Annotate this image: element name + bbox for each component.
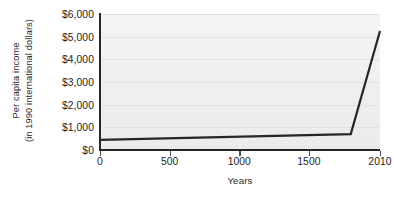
x-axis-tick-label: 1000 xyxy=(228,156,251,167)
y-axis-title: Per capita income (in 1990 international… xyxy=(0,0,46,160)
y-axis-tick-label: $1,000 xyxy=(62,122,94,133)
y-axis-title-line-1: Per capita income xyxy=(11,18,24,141)
plot-area xyxy=(100,14,380,150)
y-axis-tick-labels: $0$1,000$2,000$3,000$4,000$5,000$6,000 xyxy=(42,14,98,150)
x-axis-tick-label: 1500 xyxy=(297,156,320,167)
y-axis-tick-label: $6,000 xyxy=(62,9,94,20)
per-capita-income-chart: Per capita income (in 1990 international… xyxy=(0,0,394,198)
y-axis-tick-label: $3,000 xyxy=(62,77,94,88)
y-axis-title-line-2: (in 1990 international dollars) xyxy=(23,18,36,141)
income-line-series xyxy=(100,31,380,140)
x-axis-tick-label: 500 xyxy=(161,156,178,167)
y-axis-tick-label: $0 xyxy=(82,145,94,156)
x-axis-title: Years xyxy=(100,175,380,186)
data-line-svg xyxy=(100,14,380,150)
x-axis-tick-label: 2010 xyxy=(368,156,391,167)
y-axis-line xyxy=(99,13,101,151)
y-axis-tick-label: $5,000 xyxy=(62,31,94,42)
x-axis-tick-label: 0 xyxy=(97,156,103,167)
y-axis-tick-label: $4,000 xyxy=(62,54,94,65)
y-axis-tick-label: $2,000 xyxy=(62,99,94,110)
